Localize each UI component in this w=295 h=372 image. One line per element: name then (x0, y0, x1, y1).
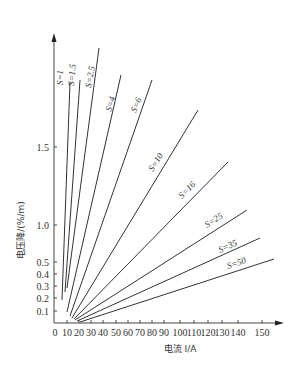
x-axis-arrow-icon (275, 321, 284, 326)
series-line (74, 162, 228, 319)
y-tick-label: 0.3 (37, 281, 50, 292)
x-tick-label: 70 (135, 327, 145, 338)
series-s-16: S=16 (74, 162, 228, 319)
x-tick-label: 120 (201, 327, 216, 338)
y-tick-label: 0.5 (37, 257, 50, 268)
series-s-10: S=10 (72, 110, 198, 318)
x-axis-title: 电流 I/A (164, 343, 198, 354)
x-tick-label: 100 (173, 327, 188, 338)
series-line (80, 259, 274, 322)
x-tick-label: 60 (123, 327, 133, 338)
series-label: S=1.5 (66, 63, 78, 86)
series-label: S=10 (146, 151, 165, 173)
x-tick-label: 150 (255, 327, 270, 338)
y-axis-title: 电压降/(%/m) (15, 201, 26, 258)
series-line (65, 80, 80, 292)
y-axis-arrow-icon (52, 33, 57, 42)
x-tick-label: 50 (111, 327, 121, 338)
series-label: S=4 (103, 95, 117, 113)
x-tick-label: 10 (62, 327, 72, 338)
series-s-35: S=35 (77, 237, 260, 321)
x-tick-label: 130 (215, 327, 230, 338)
y-tick-label: 0.1 (37, 306, 50, 317)
x-tick-label: 110 (187, 327, 202, 338)
series-line (77, 238, 260, 321)
series-s-50: S=50 (80, 255, 274, 322)
x-tick-label: 20 (74, 327, 84, 338)
y-tick-label: 0.4 (37, 269, 50, 280)
x-tick-label: 140 (231, 327, 246, 338)
series-line (62, 82, 70, 300)
series-s-1-5: S=1.5 (65, 63, 80, 292)
y-tick-label: 0.2 (37, 293, 50, 304)
y-tick-label: 1.0 (37, 220, 50, 231)
series-s-1: S=1 (55, 70, 70, 300)
x-tick-label: 40 (98, 327, 108, 338)
series-label: S=2.5 (83, 65, 97, 89)
voltage-drop-chart: 0102030405060708090100110120130140150 0.… (0, 0, 295, 372)
series-label: S=16 (176, 179, 197, 200)
y-tick-label: 1.5 (37, 142, 50, 153)
series-line (72, 110, 198, 318)
series-label: S=1 (55, 70, 65, 85)
x-tick-label: 90 (159, 327, 169, 338)
x-tick-label: 30 (86, 327, 96, 338)
series-lines: S=1S=1.5S=2.5S=4S=6S=10S=16S=25S=35S=50 (55, 48, 274, 322)
x-tick-label: 0 (53, 327, 58, 338)
x-tick-label: 80 (147, 327, 157, 338)
